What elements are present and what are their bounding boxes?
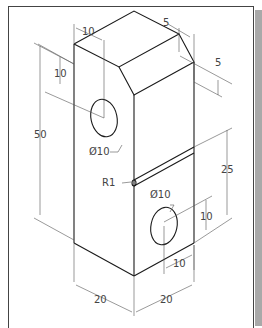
dim-groove-radius: R1: [102, 177, 115, 188]
dim-overall-height: 50: [34, 129, 47, 140]
dim-chamfer-width: 5: [163, 17, 169, 28]
dim-lower-hole-x: 10: [173, 258, 186, 269]
dim-top-hole-diameter: Ø10: [89, 146, 110, 157]
dim-width-right: 20: [160, 294, 173, 305]
dim-lower-hole-diameter: Ø10: [150, 189, 171, 200]
dim-top-hole-x: 10: [82, 26, 95, 37]
dim-chamfer-height: 5: [215, 57, 221, 68]
part-outline: [74, 11, 194, 276]
dim-lower-hole-y: 10: [200, 211, 213, 222]
dim-width-left: 20: [94, 294, 107, 305]
dim-top-hole-y: 10: [54, 68, 67, 79]
dim-groove-height: 25: [221, 164, 234, 175]
